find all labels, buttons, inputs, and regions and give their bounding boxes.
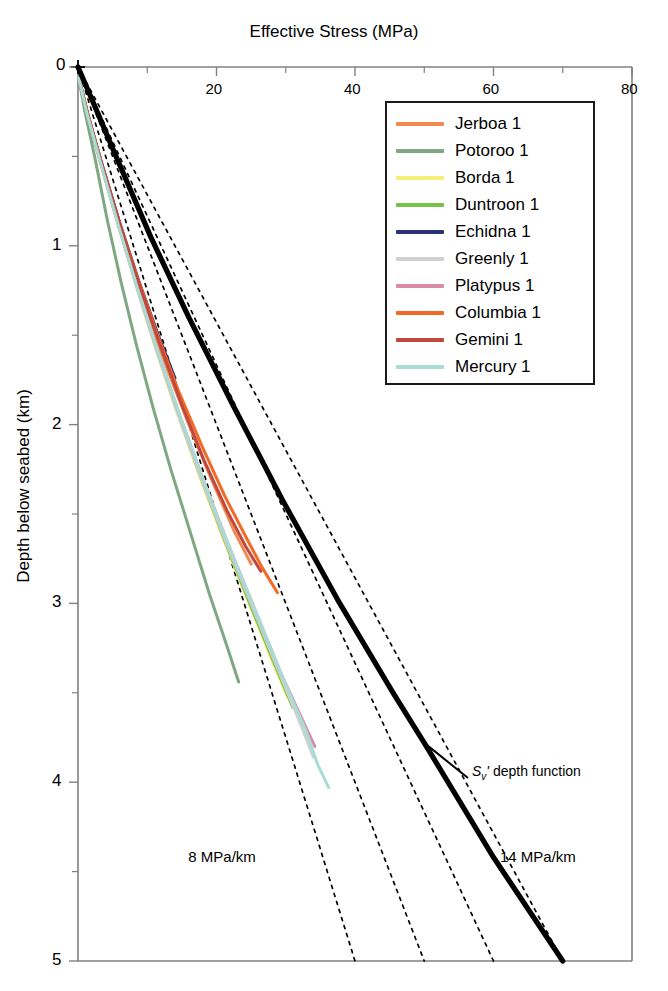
- well-curve-gemini-1: [79, 78, 261, 571]
- sv-depth-function-annotation: Sv' depth function: [472, 763, 581, 782]
- y-axis-title: Depth below seabed (km): [14, 276, 34, 696]
- legend-swatch: [396, 203, 444, 207]
- legend-item-label: Platypus 1: [455, 276, 534, 296]
- legend-item-label: Duntroon 1: [455, 195, 539, 215]
- annotation-leader-lines-layer: [424, 743, 468, 803]
- legend-item-gemini-1[interactable]: Gemini 1: [387, 326, 593, 353]
- y-tick-label-5: 5: [52, 950, 61, 970]
- legend-swatch: [396, 230, 444, 234]
- legend-item-jerboa-1[interactable]: Jerboa 1: [387, 110, 593, 137]
- legend-swatch: [396, 365, 444, 369]
- well-curve-columbia-1: [79, 78, 278, 593]
- well-curve-mercury-1: [79, 78, 329, 788]
- legend: Jerboa 1Potoroo 1Borda 1Duntroon 1Echidn…: [385, 101, 595, 385]
- legend-item-platypus-1[interactable]: Platypus 1: [387, 272, 593, 299]
- legend-swatch: [396, 257, 444, 261]
- legend-item-label: Echidna 1: [455, 222, 531, 242]
- y-tick-label-3: 3: [52, 592, 61, 612]
- legend-item-label: Mercury 1: [455, 357, 531, 377]
- x-tick-label-20: 20: [206, 80, 223, 97]
- legend-swatch: [396, 284, 444, 288]
- sv-annotation-text: depth function: [493, 763, 581, 779]
- x-axis-title: Effective Stress (MPa): [0, 22, 668, 42]
- legend-item-potoroo-1[interactable]: Potoroo 1: [387, 137, 593, 164]
- gradient-label: 8 MPa/km: [188, 848, 256, 865]
- legend-item-label: Greenly 1: [455, 249, 529, 269]
- legend-swatch: [396, 122, 444, 126]
- legend-item-label: Columbia 1: [455, 303, 541, 323]
- legend-item-label: Gemini 1: [455, 330, 523, 350]
- annotation-leader-line: [424, 743, 468, 778]
- well-curves-layer: [79, 78, 329, 788]
- legend-swatch: [396, 176, 444, 180]
- x-tick-label-80: 80: [621, 80, 638, 97]
- legend-item-label: Potoroo 1: [455, 141, 529, 161]
- sv-symbol: Sv': [472, 763, 489, 779]
- legend-item-columbia-1[interactable]: Columbia 1: [387, 299, 593, 326]
- legend-item-echidna-1[interactable]: Echidna 1: [387, 218, 593, 245]
- legend-swatch: [396, 338, 444, 342]
- figure: Effective Stress (MPa) Depth below seabe…: [0, 0, 668, 991]
- legend-swatch: [396, 311, 444, 315]
- legend-item-label: Borda 1: [455, 168, 515, 188]
- well-curve-borda-1: [79, 78, 287, 697]
- y-tick-label-1: 1: [52, 235, 61, 255]
- x-tick-label-40: 40: [344, 80, 361, 97]
- gradient-label: 14 MPa/km: [500, 848, 576, 865]
- y-tick-label-4: 4: [52, 771, 61, 791]
- x-tick-label-0: 0: [56, 55, 65, 75]
- legend-item-label: Jerboa 1: [455, 114, 521, 134]
- legend-item-mercury-1[interactable]: Mercury 1: [387, 353, 593, 380]
- x-tick-label-60: 60: [483, 80, 500, 97]
- well-curve-greenly-1: [79, 78, 314, 757]
- well-curve-platypus-1: [79, 78, 315, 747]
- legend-item-duntroon-1[interactable]: Duntroon 1: [387, 191, 593, 218]
- annotation-leader-line: [424, 743, 462, 803]
- legend-item-borda-1[interactable]: Borda 1: [387, 164, 593, 191]
- legend-item-greenly-1[interactable]: Greenly 1: [387, 245, 593, 272]
- y-tick-label-2: 2: [52, 414, 61, 434]
- legend-swatch: [396, 149, 444, 153]
